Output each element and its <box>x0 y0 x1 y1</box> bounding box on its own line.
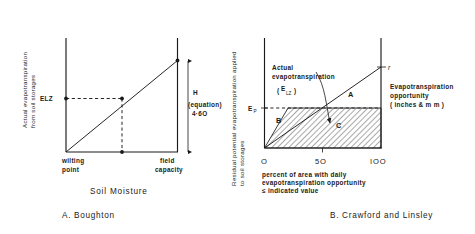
panel-a-y-axis-label-line2: from soil storages <box>29 75 36 128</box>
panel-a: Actual evapotranspiration from soil stor… <box>21 38 222 220</box>
figure-container: Actual evapotranspiration from soil stor… <box>0 0 475 234</box>
panel-b-region-label-c: C <box>336 121 342 130</box>
panel-a-y-axis-label-line1: Actual evapotranspiration <box>21 52 28 128</box>
panel-a-point-on-x-axis <box>120 150 124 154</box>
panel-b-x-tick-50: 5O <box>315 157 327 166</box>
panel-a-x-axis-title: Soil Moisture <box>90 187 148 196</box>
panel-a-annotation-equation-line1: (equation) <box>188 101 222 109</box>
panel-b-annotation-actual-symbol: ( E LZ ) <box>277 85 296 96</box>
panel-b-x-tick-0: O <box>261 157 268 166</box>
panel-a-y-tick-label: ELZ <box>40 95 53 102</box>
evapotranspiration-figure: Actual evapotranspiration from soil stor… <box>0 0 475 234</box>
panel-b-x-axis-caption-line3: ≤ indicated value <box>262 187 319 194</box>
panel-a-annotation-h: H <box>193 89 198 96</box>
panel-b-y-axis-label-line1: Residual potential evapotranspiration ap… <box>230 51 237 186</box>
panel-b-side-label-line1: Evapotranspiration <box>390 83 454 91</box>
panel-b-x-axis-caption-line1: percent of area with daily <box>262 171 347 179</box>
panel-b-y-tick-label-main: E <box>248 105 253 112</box>
panel-a-y-axis-label: Actual evapotranspiration from soil stor… <box>21 52 36 128</box>
panel-a-x-tick-right-line1: field <box>160 157 175 164</box>
panel-b-x-tick-100: IOO <box>370 157 387 166</box>
panel-a-point-field-capacity <box>176 59 180 63</box>
panel-b-region-label-b: B <box>276 116 282 125</box>
panel-b-annotation-actual-line2: evapotranspiration <box>272 73 335 81</box>
panel-b-y-tick-label-sub: P <box>254 109 257 114</box>
panel-b-side-label-line2: opportunity <box>390 92 429 100</box>
panel-a-caption: A. Boughton <box>62 211 115 220</box>
panel-a-annotation-equation-line2: 4·6O <box>192 110 207 117</box>
panel-b-y-axis-label-line2: to soil storages <box>238 140 245 186</box>
panel-b-x-axis-caption-line2: evapotranspiration opportunity <box>262 179 366 187</box>
panel-b-annotation-symbol-open: ( <box>277 87 280 95</box>
panel-b-caption: B. Crawford and Linsley <box>330 211 433 220</box>
panel-b-hatched-actual-evapotranspiration <box>265 108 382 148</box>
panel-b-point-label-r: r <box>388 64 391 71</box>
panel-b-annotation-actual-line1: Actual <box>272 64 293 71</box>
panel-b-side-label-line3: ( inches & m m ) <box>390 101 444 109</box>
panel-b-annotation-symbol-close: ) <box>294 87 296 95</box>
panel-a-x-tick-left-line1: wilting <box>61 157 84 165</box>
panel-b-y-axis-label: Residual potential evapotranspiration ap… <box>230 51 245 186</box>
panel-a-point-on-line <box>120 97 124 101</box>
panel-a-x-tick-right-line2: capacity <box>155 166 183 174</box>
panel-a-x-tick-left-line2: point <box>62 166 80 174</box>
panel-a-point-elz-axis <box>64 97 68 101</box>
panel-b-region-label-a: A <box>348 90 354 99</box>
panel-b: Residual potential evapotranspiration ap… <box>230 38 454 220</box>
panel-b-annotation-symbol-sub: LZ <box>286 91 292 96</box>
